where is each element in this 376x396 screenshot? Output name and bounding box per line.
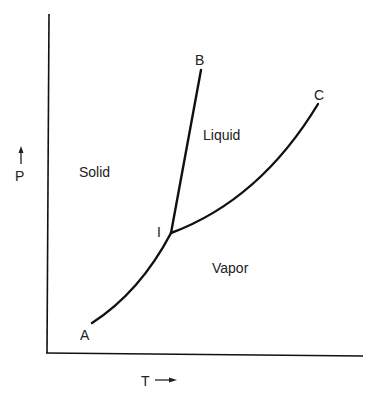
melting-curve — [171, 70, 201, 233]
y-axis — [47, 14, 49, 353]
point-label-a: A — [80, 327, 90, 343]
region-label-vapor: Vapor — [212, 260, 249, 276]
sublimation-curve — [92, 233, 171, 323]
point-label-i: I — [157, 224, 161, 240]
right-arrowhead-icon — [169, 378, 177, 383]
y-axis-label-group: P — [15, 146, 24, 184]
point-label-b: B — [195, 52, 204, 68]
up-arrowhead-icon — [19, 146, 24, 153]
region-label-liquid: Liquid — [203, 127, 240, 143]
point-label-c: C — [314, 87, 324, 103]
x-axis-label: T — [141, 373, 150, 389]
phase-diagram: P T I A B C Solid Liquid Vapor — [0, 0, 376, 396]
region-label-solid: Solid — [79, 164, 110, 180]
x-axis — [46, 353, 363, 356]
x-axis-label-group: T — [141, 373, 177, 389]
vaporization-curve — [171, 104, 318, 233]
y-axis-label: P — [15, 168, 24, 184]
